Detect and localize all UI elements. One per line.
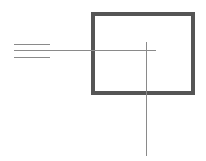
short-line-bottom [14,57,50,58]
long-horizontal-line [14,50,156,51]
vertical-line [146,42,147,156]
diagram-canvas [0,0,206,161]
rectangle-frame [91,12,195,95]
short-line-top [14,44,50,45]
